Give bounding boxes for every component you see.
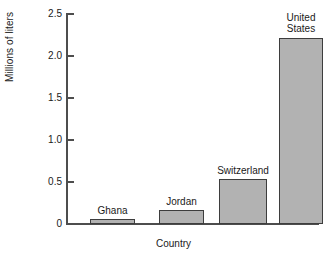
y-tick-label-2-5: 2.5 xyxy=(22,9,62,19)
y-tick-mark-2-5 xyxy=(68,13,74,15)
y-axis-title: Millions of liters xyxy=(4,0,15,82)
y-tick-mark-2-0 xyxy=(68,55,74,57)
y-axis-line xyxy=(66,13,68,225)
y-tick-label-0-5: 0.5 xyxy=(22,177,62,187)
y-tick-mark-0-5 xyxy=(68,181,74,183)
y-tick-label-2-0: 2.0 xyxy=(22,51,62,61)
bar-chart: Millions of liters 2.5 2.0 1.5 1.0 0.5 0… xyxy=(0,0,325,262)
x-axis-title-text: Country xyxy=(156,238,191,249)
y-tick-label-0: 0 xyxy=(22,219,62,229)
y-tick-mark-1-0 xyxy=(68,139,74,141)
bar-label-switzerland: Switzerland xyxy=(205,165,281,176)
y-tick-label-1-5: 1.5 xyxy=(22,93,62,103)
bar-switzerland[interactable] xyxy=(219,179,267,224)
bar-label-ghana: Ghana xyxy=(76,205,149,216)
x-axis-title: Country xyxy=(0,238,325,249)
bar-jordan[interactable] xyxy=(159,210,204,224)
bar-ghana[interactable] xyxy=(90,219,135,224)
bar-label-united-states: United States xyxy=(265,12,325,34)
bar-united-states[interactable] xyxy=(279,38,323,224)
y-tick-mark-1-5 xyxy=(68,97,74,99)
bar-label-jordan: Jordan xyxy=(145,196,218,207)
y-tick-label-1-0: 1.0 xyxy=(22,135,62,145)
